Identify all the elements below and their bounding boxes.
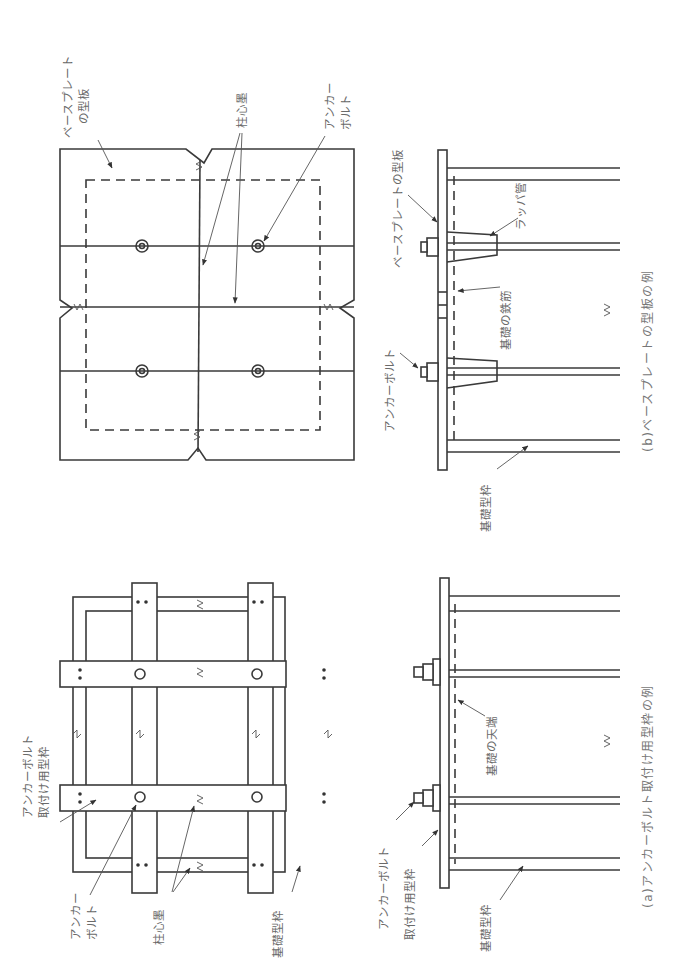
label-anchor-bolt-b-2: ボルト bbox=[340, 94, 353, 130]
label-base-plate-template: ベースプレート bbox=[62, 55, 75, 138]
label-anchor-form-2: 取付け用型枠 bbox=[38, 746, 51, 818]
label-sec-template: ベースプレートの型板 bbox=[392, 149, 405, 268]
label-trumpet-pipe: ラッパ管 bbox=[515, 182, 528, 230]
nut-assembly-1 bbox=[414, 659, 440, 685]
anchor-bolt-1 bbox=[421, 232, 620, 262]
label-sec-mount-form: 取付け用型枠 bbox=[404, 868, 417, 940]
caption-a: (a)アンカーボルト取付け用型枠の例 bbox=[638, 684, 655, 908]
base-plate-template-plan bbox=[60, 133, 354, 460]
label-column-center-a: 柱心墨 bbox=[153, 909, 166, 945]
label-anchor-bolt-a-2: ボルト bbox=[86, 904, 99, 940]
anchor-bolt-mount-form-section bbox=[396, 578, 620, 900]
label-foundation-form-a: 基礎型枠 bbox=[272, 910, 285, 958]
label-sec-anchor-bolt-a: アンカーボルト bbox=[378, 846, 391, 930]
caption-b: (b)ベースプレートの型板の例 bbox=[638, 270, 655, 452]
label-column-center-b: 柱心墨 bbox=[236, 92, 249, 128]
label-anchor-bolt-a-1: アンカー bbox=[70, 892, 83, 940]
label-rebar: 基礎の鉄筋 bbox=[500, 290, 513, 350]
nut-assembly-2 bbox=[414, 785, 440, 811]
label-sec-foundation-form-b: 基礎型枠 bbox=[480, 484, 493, 532]
label-foundation-top: 基礎の天端 bbox=[486, 716, 499, 776]
label-base-plate-template-2: の型板 bbox=[78, 88, 91, 124]
label-anchor-form-1: アンカーボルト bbox=[22, 734, 35, 818]
anchor-bolt-2 bbox=[421, 358, 620, 388]
label-sec-foundation-form-a: 基礎型枠 bbox=[480, 904, 493, 952]
nail-dots bbox=[78, 600, 326, 867]
label-sec-anchor-bolt-b: アンカーボルト bbox=[384, 348, 397, 432]
drawing-canvas bbox=[0, 0, 686, 970]
label-anchor-bolt-b-1: アンカー bbox=[324, 82, 337, 130]
anchor-bolt-mount-form-plan bbox=[60, 583, 332, 895]
